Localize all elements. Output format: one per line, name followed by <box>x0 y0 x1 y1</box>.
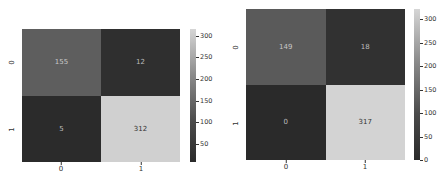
right-cell-value: 317 <box>359 118 372 126</box>
left-cbar-tick-50: 50 <box>196 141 208 148</box>
right-cell-value: 18 <box>361 43 370 51</box>
left-cbar-tick-200: 200 <box>196 76 212 83</box>
left-cell-value: 312 <box>134 125 147 133</box>
right-cbar-tick-250: 250 <box>420 40 436 47</box>
right-xtick-0: 0 <box>284 160 288 171</box>
right-heatmap-grid: 149 18 0 317 <box>246 9 405 160</box>
right-cell-1-0: 0 <box>246 85 326 161</box>
right-xtick-1: 1 <box>363 160 367 171</box>
left-cell-0-0: 155 <box>22 29 101 96</box>
left-cell-value: 5 <box>59 125 63 133</box>
left-cell-value: 12 <box>136 58 145 66</box>
right-cbar-tick-300: 300 <box>420 16 436 23</box>
left-heatmap-grid: 155 12 5 312 <box>22 29 180 162</box>
left-heatmap-panel: 155 12 5 312 0 1 0 1 300 250 200 150 100… <box>0 0 224 182</box>
right-heatmap-panel: 149 18 0 317 0 1 0 1 300 250 200 150 100… <box>224 0 447 182</box>
left-ytick-1: 1 <box>9 127 16 131</box>
right-cell-value: 0 <box>284 118 288 126</box>
right-cell-1-1: 317 <box>326 85 406 161</box>
left-cbar-tick-250: 250 <box>196 54 212 61</box>
right-cbar-tick-50: 50 <box>420 134 432 141</box>
left-cell-1-0: 5 <box>22 96 101 163</box>
right-cell-value: 149 <box>279 43 292 51</box>
right-cell-0-0: 149 <box>246 9 326 85</box>
left-cell-0-1: 12 <box>101 29 180 96</box>
left-xtick-0: 0 <box>59 162 63 173</box>
left-cbar-tick-150: 150 <box>196 98 212 105</box>
right-cbar-tick-100: 100 <box>420 110 436 117</box>
left-xtick-1: 1 <box>139 162 143 173</box>
right-ytick-1: 1 <box>233 121 240 125</box>
left-ytick-0: 0 <box>9 60 16 64</box>
right-ytick-0: 0 <box>233 45 240 49</box>
left-cbar-tick-100: 100 <box>196 119 212 126</box>
left-cbar-tick-300: 300 <box>196 33 212 40</box>
right-cbar-tick-200: 200 <box>420 63 436 70</box>
right-cell-0-1: 18 <box>326 9 406 85</box>
left-cell-1-1: 312 <box>101 96 180 163</box>
left-cell-value: 155 <box>55 58 68 66</box>
right-cbar-tick-150: 150 <box>420 87 436 94</box>
right-cbar-tick-0: 0 <box>420 157 428 164</box>
